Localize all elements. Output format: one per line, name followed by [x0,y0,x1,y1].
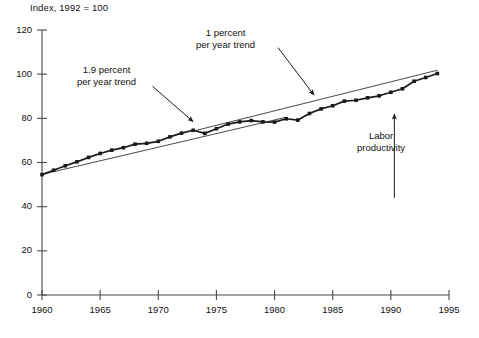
data-point-marker [377,94,381,98]
y-tick-label: 120 [0,24,32,35]
annotation-arrow [278,48,314,95]
chart-figure: Index, 1992 = 100 0204060801001201960196… [0,0,479,338]
data-point-marker [180,131,184,135]
x-tick-label: 1970 [133,304,183,315]
data-point-marker [366,96,370,100]
chart-plot-area [0,0,479,338]
data-point-marker [122,146,126,150]
data-point-marker [331,104,335,108]
x-tick-label: 1985 [308,304,358,315]
data-point-marker [191,128,195,132]
annotation-line: productivity [357,142,405,154]
x-tick-label: 1990 [366,304,416,315]
x-tick-label: 1995 [424,304,474,315]
data-point-marker [284,117,288,121]
data-point-marker [401,87,405,91]
data-point-marker [424,76,428,80]
trend-line [193,70,437,131]
data-point-marker [261,120,265,124]
data-point-marker [87,156,91,160]
data-series-line [42,74,437,175]
labor-productivity-annotation: Laborproductivity [357,130,405,153]
annotation-line: per year trend [196,39,255,51]
trend-1-annotation: 1 percentper year trend [196,27,255,50]
y-tick-label: 80 [0,112,32,123]
data-point-marker [343,99,347,103]
data-point-marker [296,118,300,122]
data-point-marker [40,173,44,177]
data-point-marker [354,98,358,102]
data-point-marker [110,148,114,152]
data-point-marker [145,141,149,145]
data-point-marker [133,142,137,146]
data-point-marker [156,140,160,144]
annotation-line: Labor [357,130,405,142]
data-point-marker [215,127,219,131]
data-point-marker [273,120,277,124]
y-tick-label: 60 [0,156,32,167]
data-point-marker [436,72,440,76]
data-point-marker [412,79,416,83]
annotation-line: 1.9 percent [77,64,136,76]
trend-line [42,117,286,174]
data-point-marker [98,152,102,156]
trend-19-annotation: 1.9 percentper year trend [77,64,136,87]
y-tick-label: 0 [0,289,32,300]
data-point-marker [238,120,242,124]
data-point-marker [75,160,79,164]
annotation-line: per year trend [77,76,136,88]
annotation-line: 1 percent [196,27,255,39]
data-point-marker [203,132,207,136]
annotation-arrow [152,86,193,121]
data-point-marker [63,164,67,168]
data-point-marker [250,119,254,123]
data-point-marker [389,90,393,94]
data-point-marker [168,135,172,139]
y-tick-label: 100 [0,68,32,79]
data-point-marker [52,168,56,172]
y-tick-label: 40 [0,200,32,211]
data-point-marker [308,112,312,116]
x-tick-label: 1975 [191,304,241,315]
y-tick-label: 20 [0,244,32,255]
x-tick-label: 1980 [250,304,300,315]
data-point-marker [319,107,323,111]
x-tick-label: 1960 [17,304,67,315]
x-tick-label: 1965 [75,304,125,315]
data-point-marker [226,122,230,126]
